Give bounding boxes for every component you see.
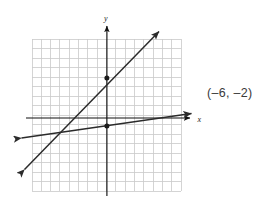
y-axis-label: y [103, 14, 108, 23]
x-axis-label: x [197, 115, 202, 124]
steep-line-y-intercept-point [104, 76, 109, 81]
shallow-line-y-intercept-point [104, 124, 109, 129]
coordinate-plane-svg: x y [0, 0, 273, 211]
graph-figure: x y (–6, –2) [0, 0, 273, 211]
steep-line [25, 32, 160, 170]
intersection-point-label: (–6, –2) [207, 86, 252, 100]
steep-line-graph [25, 32, 160, 170]
